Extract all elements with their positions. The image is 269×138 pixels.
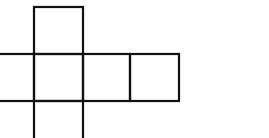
net-face-left-cropped (0, 54, 34, 101)
cube-net-diagram (0, 0, 269, 138)
net-face-right-2 (130, 54, 179, 101)
net-face-center (34, 54, 83, 101)
net-face-bottom-cropped (34, 101, 83, 138)
net-face-top (34, 7, 83, 54)
net-face-right-1 (83, 54, 130, 101)
